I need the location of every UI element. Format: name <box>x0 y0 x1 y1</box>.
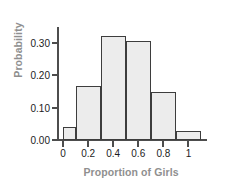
y-tick-label: 0.20 <box>0 70 50 81</box>
histogram-bar <box>151 92 176 140</box>
histogram-chart: Probability 0.000.100.200.30 00.20.40.60… <box>0 0 225 187</box>
x-axis-title: Proportion of Girls <box>46 166 216 178</box>
y-tick-label: 0.30 <box>0 37 50 48</box>
histogram-bar <box>126 41 151 140</box>
x-tick-mark <box>187 141 189 147</box>
x-tick-label: 1 <box>173 148 203 159</box>
plot-area <box>58 28 206 140</box>
histogram-bar <box>176 131 201 140</box>
histogram-bar <box>76 86 101 140</box>
x-tick-mark <box>62 141 64 147</box>
y-tick-label: 0.10 <box>0 102 50 113</box>
x-tick-mark <box>137 141 139 147</box>
histogram-bar <box>63 127 76 140</box>
x-tick-mark <box>162 141 164 147</box>
histogram-bar <box>101 36 126 140</box>
y-axis-title: Probability <box>12 0 24 104</box>
y-tick-label: 0.00 <box>0 135 50 146</box>
x-tick-mark <box>87 141 89 147</box>
x-tick-mark <box>112 141 114 147</box>
